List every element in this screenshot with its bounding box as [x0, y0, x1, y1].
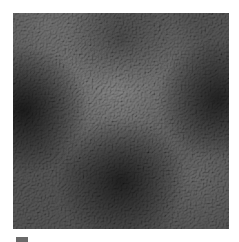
texture-swatch: [13, 13, 229, 229]
swatch-chip-icon: [16, 237, 28, 242]
texture-figure: [0, 0, 239, 242]
noise-texture-graphic: [13, 13, 229, 229]
